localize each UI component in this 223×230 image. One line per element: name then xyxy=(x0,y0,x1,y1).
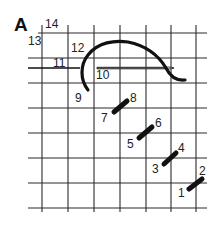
point-label-14: 14 xyxy=(45,17,59,31)
point-label-1: 1 xyxy=(178,186,185,200)
point-label-4: 4 xyxy=(178,141,185,155)
point-label-3: 3 xyxy=(152,162,159,176)
point-label-5: 5 xyxy=(127,137,134,151)
point-label-7: 7 xyxy=(101,111,108,125)
point-label-10: 10 xyxy=(96,68,110,82)
stitch-diagram: 1234567891011121314 A xyxy=(0,0,223,230)
point-label-9: 9 xyxy=(75,91,82,105)
point-label-13: 13 xyxy=(28,34,42,48)
grid xyxy=(28,25,207,212)
point-label-12: 12 xyxy=(71,41,85,55)
point-label-2: 2 xyxy=(199,164,206,178)
point-label-11: 11 xyxy=(53,56,66,70)
panel-label: A xyxy=(14,14,28,35)
point-label-8: 8 xyxy=(130,91,137,105)
point-label-6: 6 xyxy=(155,116,162,130)
